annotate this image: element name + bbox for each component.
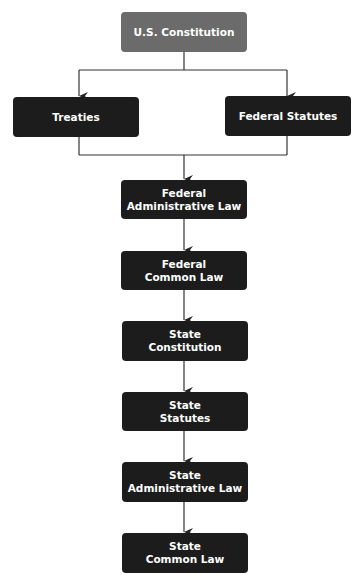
node-us-constitution: U.S. Constitution xyxy=(121,12,247,52)
node-label: U.S. Constitution xyxy=(134,26,235,39)
node-label-line1: State xyxy=(169,540,201,553)
node-label-line1: Federal xyxy=(162,187,206,200)
node-label-line2: Constitution xyxy=(148,341,221,354)
node-label-line2: Administrative Law xyxy=(128,482,243,495)
node-label-line1: State xyxy=(169,469,201,482)
node-treaties: Treaties xyxy=(13,97,139,137)
node-label: Treaties xyxy=(52,111,99,124)
node-federal-administrative-law: Federal Administrative Law xyxy=(121,180,247,219)
law-hierarchy-diagram: U.S. Constitution Treaties Federal Statu… xyxy=(0,0,364,575)
node-label-line1: Federal xyxy=(162,258,206,271)
node-label-line1: State xyxy=(169,399,201,412)
node-state-statutes: State Statutes xyxy=(122,392,248,431)
node-state-administrative-law: State Administrative Law xyxy=(122,462,248,502)
node-label-line2: Common Law xyxy=(145,271,224,284)
node-state-constitution: State Constitution xyxy=(122,321,248,361)
node-label-line2: Administrative Law xyxy=(127,200,242,213)
node-label: Federal Statutes xyxy=(239,110,338,123)
node-label-line1: State xyxy=(169,328,201,341)
node-federal-common-law: Federal Common Law xyxy=(121,251,247,290)
node-federal-statutes: Federal Statutes xyxy=(225,96,351,136)
node-label-line2: Statutes xyxy=(160,412,211,425)
node-label-line2: Common Law xyxy=(146,553,225,566)
node-state-common-law: State Common Law xyxy=(122,533,248,573)
